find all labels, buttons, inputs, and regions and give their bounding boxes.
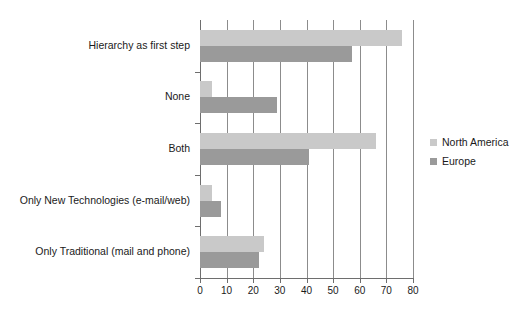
bar [200,30,402,46]
category-label: Both [0,142,190,155]
bar [200,81,212,97]
legend-label: Europe [442,155,476,167]
bar-group [200,236,413,268]
x-tick-10 [227,278,228,283]
x-tick-20 [253,278,254,283]
y-tick [195,226,200,227]
bar [200,252,259,268]
x-tick-60 [360,278,361,283]
bar [200,133,376,149]
category-label: Only Traditional (mail and phone) [0,245,190,258]
y-tick [195,72,200,73]
legend-entry: North America [430,136,509,148]
bar-chart: 01020304050607080 Hierarchy as first ste… [0,0,531,311]
x-tick-80 [413,278,414,283]
category-label: Hierarchy as first step [0,39,190,52]
x-tick-50 [333,278,334,283]
bar [200,201,221,217]
legend-label: North America [442,136,509,148]
bar [200,149,309,165]
gridline-80 [413,20,414,278]
legend-swatch-icon [430,158,437,165]
legend-swatch-icon [430,139,437,146]
bar-group [200,133,413,165]
bar-group [200,185,413,217]
x-tick-30 [280,278,281,283]
x-tick-label-80: 80 [393,285,433,297]
y-tick [195,175,200,176]
category-label: None [0,90,190,103]
plot-area [200,20,413,278]
x-tick-40 [307,278,308,283]
y-tick [195,278,200,279]
bar [200,236,264,252]
x-tick-0 [200,278,201,283]
legend-entry: Europe [430,155,509,167]
bar [200,185,212,201]
bar [200,97,277,113]
y-tick [195,123,200,124]
bar-group [200,81,413,113]
x-tick-70 [386,278,387,283]
bar [200,46,352,62]
category-label: Only New Technologies (e-mail/web) [0,194,190,207]
chart-legend: North AmericaEurope [430,136,509,174]
bar-group [200,30,413,62]
